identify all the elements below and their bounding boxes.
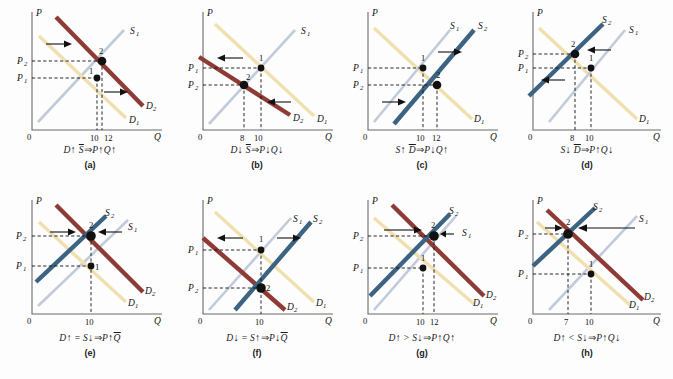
price-label-p1: P <box>16 73 23 83</box>
curve-label-d1-sub: 1 <box>323 302 326 309</box>
curve-label-d2-sub: 2 <box>493 294 497 301</box>
price-label-p1: P <box>15 261 22 271</box>
curve-label-s1-sub: 1 <box>645 218 648 225</box>
curve-label-d2: D <box>292 113 300 123</box>
axis-label-quantity: Q <box>154 132 161 142</box>
curve-label-s2-sub: 2 <box>319 218 323 225</box>
curve-label-s1-sub: 1 <box>299 218 302 225</box>
caption-lhs-dir: ↑ <box>561 332 567 343</box>
panel-d-letter: (d) <box>503 160 671 170</box>
point-label-2: 2 <box>436 70 440 80</box>
curve-label-d1: D <box>315 298 323 308</box>
q-tick-2: 12 <box>432 133 441 143</box>
curve-label-s2: S <box>593 202 598 212</box>
caption-relation: > <box>404 333 410 343</box>
panel-g-letter: (g) <box>338 348 506 358</box>
panel-b-letter: (b) <box>173 160 341 170</box>
price-label-p1-sub: 1 <box>23 265 26 272</box>
price-label-p1-sub: 1 <box>525 273 528 280</box>
panel-a-caption: D↑ S⇒P↑Q↑ <box>6 144 174 155</box>
caption-relation: < <box>569 333 575 343</box>
caption-q-var: Q <box>271 145 278 155</box>
curve-label-d2: D <box>144 286 152 296</box>
caption-q-var: Q <box>104 145 111 155</box>
axis-label-price: P <box>206 196 213 206</box>
q-tick-2: 10 <box>254 133 263 143</box>
price-label-p1: P <box>187 245 194 255</box>
axis-label-quantity: Q <box>325 132 332 142</box>
caption-q-var: Q <box>114 333 121 343</box>
curve-label-d1: D <box>316 114 324 124</box>
caption-implies: ⇒ <box>423 332 431 343</box>
axis-label-quantity: Q <box>653 132 660 142</box>
caption-q-dir: ↓ <box>608 144 614 155</box>
caption-implies: ⇒ <box>416 144 424 155</box>
caption-lhs-dir: ↑ <box>396 332 402 343</box>
curve-label-s1-sub: 1 <box>468 232 471 239</box>
caption-lhs-dir: ↓ <box>238 144 244 155</box>
point-label-1: 1 <box>421 253 425 263</box>
equilibrium-point-1 <box>588 65 595 72</box>
axis-label-quantity: Q <box>325 316 332 326</box>
point-label-2: 2 <box>89 220 93 230</box>
caption-fixed-var: D <box>574 145 581 155</box>
price-label-p2-sub: 2 <box>360 84 364 91</box>
curve-label-s1: S <box>301 26 306 36</box>
price-label-p2: P <box>352 231 359 241</box>
curve-label-d1: D <box>127 298 135 308</box>
point-label-1: 1 <box>589 53 593 63</box>
curve-label-d1-sub: 1 <box>135 302 138 309</box>
panel-h-letter: (h) <box>503 348 671 358</box>
price-label-p1-sub: 1 <box>360 67 363 74</box>
equilibrium-point-1 <box>258 65 265 72</box>
curve-label-s1-sub: 1 <box>456 25 459 32</box>
equilibrium-point-2 <box>86 231 96 241</box>
curve-label-d1-sub: 1 <box>646 118 649 125</box>
equilibrium-point-2 <box>429 231 439 241</box>
curve-label-d2-sub: 2 <box>153 105 157 112</box>
caption-q-dir: ↑ <box>111 144 117 155</box>
q-tick-1: 10 <box>416 317 425 327</box>
axis-label-price: P <box>536 196 543 206</box>
caption-lhs-dir: ↑ <box>71 144 77 155</box>
panel-b-caption: D↓ S⇒P↓Q↓ <box>173 144 341 155</box>
q-tick-1: 8 <box>570 133 574 143</box>
price-label-p1: P <box>517 269 524 279</box>
panel-g: P Q 0 1 2 P 1 P 2 10 12 S 1 S 2 <box>338 192 506 379</box>
point-label-2: 2 <box>246 72 250 82</box>
panel-c-caption: S↑ D⇒P↓Q↑ <box>338 144 506 155</box>
price-label-p1-sub: 1 <box>525 67 528 74</box>
panel-g-caption: D↑ > S↓⇒P↑Q↑ <box>338 332 506 343</box>
q-tick-2: 10 <box>585 317 594 327</box>
panel-g-plot: P Q 0 1 2 P 1 P 2 10 12 S 1 S 2 <box>338 192 506 334</box>
curve-label-d1-sub: 1 <box>136 119 139 126</box>
curve-label-d2-sub: 2 <box>300 117 304 124</box>
equilibrium-point-2 <box>571 50 580 59</box>
supply-demand-figure: P Q 0 1 2 P 1 P 2 10 12 S 1 D 1 D <box>0 0 673 379</box>
curve-label-d2-sub: 2 <box>651 296 655 303</box>
curve-label-d1: D <box>128 115 136 125</box>
panel-c: P Q 0 1 2 P 1 P 2 10 12 S 1 S 2 D <box>338 4 506 193</box>
point-label-2: 2 <box>566 217 570 227</box>
price-label-p2-sub: 2 <box>195 84 199 91</box>
panel-f: P Q 0 1 2 P 1 P 2 10 S 1 S 2 D 1 <box>173 192 341 379</box>
caption-q-dir: ↓ <box>615 332 621 343</box>
point-label-2: 2 <box>266 283 270 293</box>
caption-lhs-var: D <box>553 333 560 343</box>
equilibrium-point-1 <box>94 75 101 82</box>
q-tick-1: 10 <box>416 133 425 143</box>
curve-label-d2: D <box>643 292 651 302</box>
price-label-p1: P <box>187 63 194 73</box>
panel-a: P Q 0 1 2 P 1 P 2 10 12 S 1 D 1 D <box>6 4 174 193</box>
axis-label-price: P <box>35 196 42 206</box>
panel-b: P Q 0 1 2 P 1 P 2 8 10 S 1 D 1 D <box>173 4 341 193</box>
q-tick-1: 10 <box>85 317 94 327</box>
axis-label-price: P <box>536 8 543 18</box>
curve-label-d2-sub: 2 <box>294 306 298 313</box>
equilibrium-point-1 <box>420 65 427 72</box>
curve-label-s1: S <box>130 26 135 36</box>
curve-label-s2: S <box>313 214 318 224</box>
point-label-1: 1 <box>259 53 263 63</box>
caption-relation: = <box>75 333 81 343</box>
curve-label-s1: S <box>450 21 455 31</box>
